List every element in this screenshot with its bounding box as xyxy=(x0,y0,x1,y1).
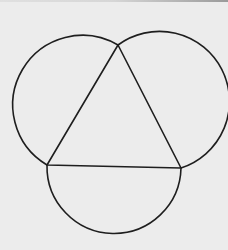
triangle-arcs-diagram xyxy=(0,0,228,250)
arcs-group xyxy=(13,31,228,233)
bottom-arc xyxy=(47,165,181,233)
left-arc xyxy=(13,35,118,165)
triangle xyxy=(47,45,181,168)
right-arc xyxy=(118,31,228,168)
